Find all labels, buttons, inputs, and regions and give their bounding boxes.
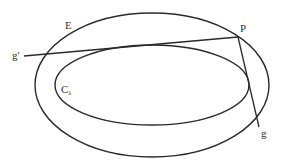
outer-ellipse-E <box>35 13 269 157</box>
label-lambda-subscript: λ <box>68 89 72 97</box>
label-P: P <box>240 22 246 34</box>
tangent-line-g-prime <box>24 37 238 56</box>
label-E: E <box>65 19 72 31</box>
confocal-ellipses-diagram: E P g' g Cλ <box>0 0 283 166</box>
label-g: g <box>261 127 267 139</box>
label-g-prime: g' <box>12 49 20 61</box>
label-C-lambda: Cλ <box>61 83 72 97</box>
tangent-line-g <box>238 37 259 127</box>
inner-ellipse-C-lambda <box>55 45 249 125</box>
label-C: C <box>61 83 68 95</box>
